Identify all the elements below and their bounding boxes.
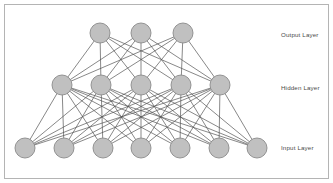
connection-edge: [62, 33, 183, 85]
layer-label-hidden: Hidden Layer: [281, 85, 320, 91]
neuron-node-input-5: [170, 138, 190, 158]
neuron-nodes-group: [15, 23, 267, 158]
neuron-node-input-1: [15, 138, 35, 158]
connection-edge: [181, 85, 219, 148]
neuron-node-output-1: [90, 23, 110, 43]
network-graph-svg: [0, 0, 333, 183]
neuron-node-hidden-2: [91, 75, 111, 95]
connection-edge: [220, 85, 257, 148]
neuron-node-output-2: [131, 23, 151, 43]
neuron-node-input-6: [209, 138, 229, 158]
layer-label-output: Output Layer: [281, 32, 319, 38]
connection-edge: [25, 85, 62, 148]
neuron-node-hidden-1: [52, 75, 72, 95]
neuron-node-hidden-5: [210, 75, 230, 95]
neural-network-diagram: Output Layer Hidden Layer Input Layer: [0, 0, 333, 183]
connection-edge: [64, 85, 181, 148]
neuron-node-hidden-4: [171, 75, 191, 95]
connection-edge: [100, 33, 220, 85]
layer-label-input: Input Layer: [281, 145, 314, 151]
neuron-node-input-2: [54, 138, 74, 158]
connection-edge: [62, 85, 257, 148]
neuron-node-input-4: [131, 138, 151, 158]
neuron-node-output-3: [173, 23, 193, 43]
neuron-node-input-7: [247, 138, 267, 158]
neuron-node-hidden-3: [131, 75, 151, 95]
neuron-node-input-3: [93, 138, 113, 158]
